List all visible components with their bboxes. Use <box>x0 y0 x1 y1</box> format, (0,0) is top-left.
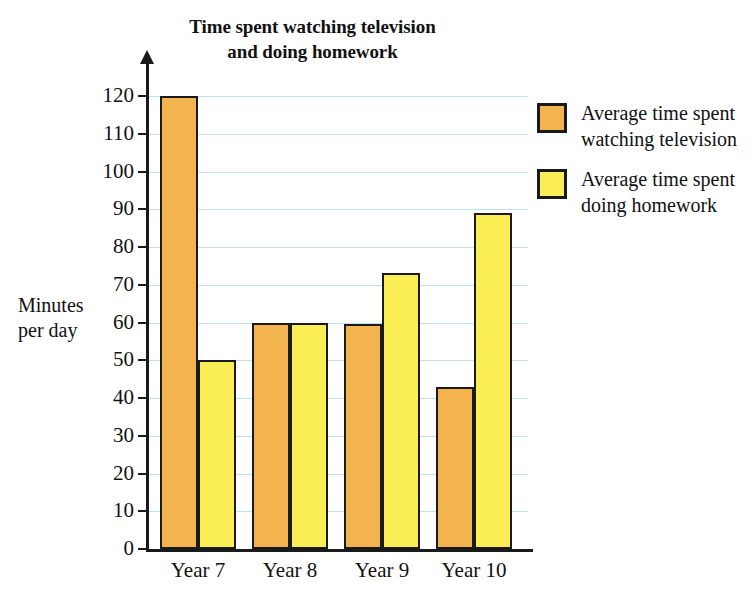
legend-label-homework-line-1: Average time spent <box>581 166 752 192</box>
legend-label-television-line-2: watching television <box>581 126 752 152</box>
bar-chart-figure: Time spent watching television and doing… <box>0 0 754 601</box>
bar-year-7-television <box>160 96 198 549</box>
legend-label-television: Average time spent watching television <box>581 100 752 152</box>
y-axis-tick-label: 60 <box>92 312 134 333</box>
y-axis-tick <box>138 322 147 324</box>
x-axis-line <box>146 549 533 552</box>
y-axis-tick-label: 30 <box>92 425 134 446</box>
y-axis-tick-label: 100 <box>92 161 134 182</box>
legend-swatch-homework <box>537 169 567 199</box>
legend-label-television-line-1: Average time spent <box>581 100 752 126</box>
y-axis-tick <box>138 359 147 361</box>
x-axis-label: Year 10 <box>419 558 529 582</box>
chart-title-line-1: Time spent watching television <box>140 14 485 39</box>
y-axis-line <box>146 62 149 551</box>
y-axis-tick-label: 120 <box>92 85 134 106</box>
bar-year-8-television <box>252 323 290 550</box>
y-axis-tick <box>138 435 147 437</box>
y-axis-tick-label: 50 <box>92 349 134 370</box>
y-axis-tick-label: 0 <box>92 538 134 559</box>
legend-entry-television: Average time spent watching television <box>537 100 752 152</box>
y-axis-tick-label: 10 <box>92 500 134 521</box>
gridline <box>146 172 528 173</box>
legend-entry-homework: Average time spent doing homework <box>537 166 752 218</box>
bar-year-10-homework <box>474 213 512 549</box>
gridline <box>146 134 528 135</box>
legend-swatch-television <box>537 103 567 133</box>
y-axis-tick <box>138 548 147 550</box>
y-axis-tick-label: 80 <box>92 236 134 257</box>
chart-title: Time spent watching television and doing… <box>140 14 485 64</box>
gridline <box>146 323 528 324</box>
scan-artifact <box>0 0 754 9</box>
bar-year-8-homework <box>290 323 328 550</box>
y-axis-tick-label: 40 <box>92 387 134 408</box>
gridline <box>146 285 528 286</box>
bar-year-9-homework <box>382 273 420 549</box>
legend-label-homework-line-2: doing homework <box>581 192 752 218</box>
gridline <box>146 209 528 210</box>
y-axis-tick-label: 70 <box>92 274 134 295</box>
y-axis-tick <box>138 246 147 248</box>
bar-year-10-television <box>436 387 474 549</box>
gridline <box>146 96 528 97</box>
y-axis-tick-label: 90 <box>92 198 134 219</box>
y-axis-tick <box>138 208 147 210</box>
y-axis-tick <box>138 171 147 173</box>
y-axis-tick <box>138 510 147 512</box>
legend-label-homework: Average time spent doing homework <box>581 166 752 218</box>
y-axis-tick-label: 20 <box>92 463 134 484</box>
y-axis-tick <box>138 397 147 399</box>
y-axis-tick <box>138 473 147 475</box>
y-axis-tick-label: 110 <box>92 123 134 144</box>
bar-year-9-television <box>344 324 382 549</box>
y-axis-tick <box>138 95 147 97</box>
gridline <box>146 247 528 248</box>
bar-year-7-homework <box>198 360 236 549</box>
y-axis-tick <box>138 133 147 135</box>
chart-legend: Average time spent watching television A… <box>537 100 752 232</box>
y-axis-tick <box>138 284 147 286</box>
